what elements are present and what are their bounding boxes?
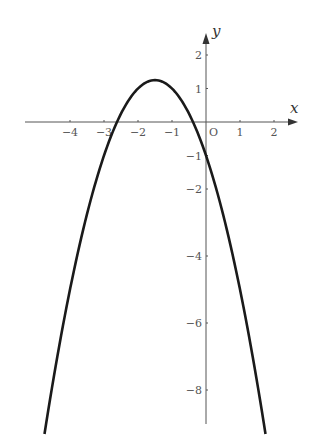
x-axis-arrow-icon (288, 119, 298, 126)
x-tick-label: −2 (130, 126, 146, 139)
y-tick-label: −6 (186, 317, 202, 330)
y-tick-label: 2 (195, 49, 202, 62)
y-tick-label: 1 (195, 83, 202, 96)
x-axis-label: x (290, 99, 299, 117)
y-tick-label: −1 (186, 150, 202, 163)
y-axis-arrow-icon (203, 33, 210, 44)
axes (25, 33, 298, 424)
x-tick-label: 2 (271, 126, 278, 139)
parabola-plot: −4−3−2−11221−1−2−4−6−8 x y O (0, 0, 316, 446)
x-tick-label: 1 (237, 126, 244, 139)
x-tick-label: −4 (62, 126, 78, 139)
y-axis-label: y (211, 22, 221, 40)
y-tick-label: −4 (186, 250, 202, 263)
y-tick-label: −2 (186, 183, 202, 196)
x-tick-label: −1 (164, 126, 180, 139)
origin-label: O (209, 126, 218, 139)
tick-labels: −4−3−2−11221−1−2−4−6−8 (62, 49, 278, 397)
y-tick-label: −8 (186, 384, 202, 397)
chart-figure: −4−3−2−11221−1−2−4−6−8 x y O (0, 0, 316, 446)
